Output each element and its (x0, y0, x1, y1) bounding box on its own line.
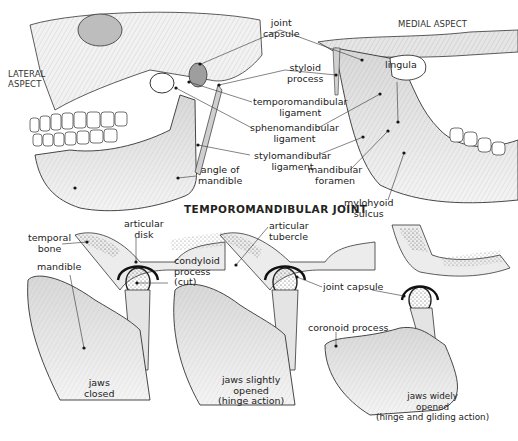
sphenomandibular-ligament-label: sphenomandibular ligament (250, 123, 339, 144)
label-line: temporomandibular (253, 97, 347, 108)
label-line: (cut) (174, 277, 220, 288)
label-line: articular (269, 221, 309, 232)
label-line: disk (124, 230, 164, 241)
medial-aspect-caption: MEDIAL ASPECT (398, 20, 467, 30)
label-line: ligament (250, 134, 339, 145)
condyloid-process-label: condyloid process (cut) (174, 256, 220, 288)
label-line: styloid (287, 63, 324, 74)
articular-tubercle-label: articular tubercle (269, 221, 309, 242)
mandible-label: mandible (37, 262, 81, 273)
caption-line: jaws (84, 378, 115, 389)
lingula-label: lingula (385, 60, 417, 71)
label-line: sphenomandibular (250, 123, 339, 134)
coronoid-process-label: coronoid process (308, 323, 389, 334)
caption-line: (hinge action) (218, 396, 284, 407)
label-line: temporal (28, 233, 71, 244)
label-line: mandible (198, 176, 242, 187)
tmj-figure: LATERAL ASPECT MEDIAL ASPECT joint capsu… (0, 0, 518, 441)
temporal-bone-label: temporal bone (28, 233, 71, 254)
lateral-aspect-caption: LATERAL ASPECT (8, 70, 45, 89)
caption-line: ASPECT (8, 80, 45, 90)
caption-line: (hinge and gliding action) (376, 412, 489, 423)
label-line: joint (263, 18, 300, 29)
label-line: process (287, 74, 324, 85)
jaws-closed-caption: jaws closed (84, 378, 115, 399)
label-line: capsule (263, 29, 300, 40)
label-line: articular (124, 219, 164, 230)
jaws-slightly-opened-caption: jaws slightly opened (hinge action) (218, 375, 284, 407)
joint-capsule-bottom-label: joint capsule (323, 282, 383, 293)
jaws-widely-opened-caption: jaws widely opened (hinge and gliding ac… (376, 391, 489, 423)
label-line: condyloid (174, 256, 220, 267)
styloid-process-label: styloid process (287, 63, 324, 84)
label-line: ligament (253, 108, 347, 119)
label-line: stylomandibular (254, 151, 331, 162)
joint-capsule-label: joint capsule (263, 18, 300, 39)
label-line: bone (28, 244, 71, 255)
caption-line: jaws slightly (218, 375, 284, 386)
label-line: tubercle (269, 232, 309, 243)
mandibular-foramen-label: mandibular foramen (308, 165, 362, 186)
caption-line: jaws widely (376, 391, 489, 402)
temporomandibular-ligament-label: temporomandibular ligament (253, 97, 347, 118)
label-line: mandibular (308, 165, 362, 176)
articular-disk-label: articular disk (124, 219, 164, 240)
label-line: angle of (198, 165, 242, 176)
figure-title: TEMPOROMANDIBULAR JOINT (184, 203, 367, 215)
angle-of-mandible-label: angle of mandible (198, 165, 242, 186)
caption-line: closed (84, 389, 115, 400)
label-line: foramen (308, 176, 362, 187)
caption-line: opened (376, 402, 489, 413)
